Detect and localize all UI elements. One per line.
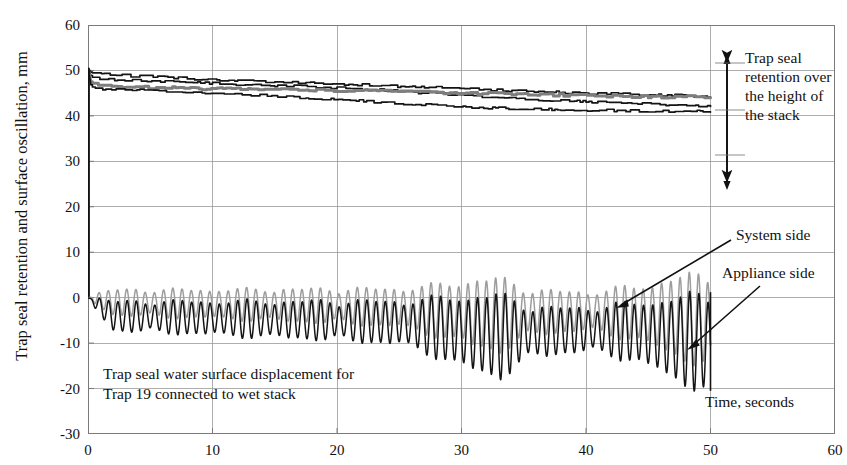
- y-tick-label: 20: [36, 200, 80, 215]
- y-tick-label: -30: [36, 427, 80, 442]
- annotation-system-side: System side: [736, 226, 811, 245]
- x-axis-title: Time, seconds: [705, 393, 794, 412]
- x-tick-label: 0: [68, 443, 108, 458]
- y-tick-label: 0: [36, 291, 80, 306]
- x-tick-label: 50: [691, 443, 731, 458]
- y-tick-label: 30: [36, 154, 80, 169]
- chart-title: [0, 0, 847, 2]
- y-tick-label: 40: [36, 109, 80, 124]
- x-tick-label: 20: [317, 443, 357, 458]
- caption-line-2: Trap 19 connected to wet stack: [103, 384, 354, 404]
- annotation-appliance-side: Appliance side: [722, 264, 815, 283]
- y-tick-label: 10: [36, 245, 80, 260]
- caption-line-1: Trap seal water surface displacement for: [103, 364, 354, 384]
- x-tick-label: 30: [442, 443, 482, 458]
- x-tick-label: 10: [193, 443, 233, 458]
- x-tick-label: 40: [566, 443, 606, 458]
- annotation-caption: Trap seal water surface displacement for…: [103, 364, 354, 404]
- chart-figure: Trap seal retention and surface oscillat…: [0, 0, 847, 465]
- y-axis-label: Trap seal retention and surface oscillat…: [12, 6, 32, 406]
- y-tick-label: -10: [36, 336, 80, 351]
- x-tick-label: 60: [815, 443, 847, 458]
- y-tick-label: 50: [36, 63, 80, 78]
- y-tick-label: -20: [36, 382, 80, 397]
- annotation-stack-retention: Trap seal retention over the height of t…: [745, 49, 845, 125]
- y-tick-label: 60: [36, 18, 80, 33]
